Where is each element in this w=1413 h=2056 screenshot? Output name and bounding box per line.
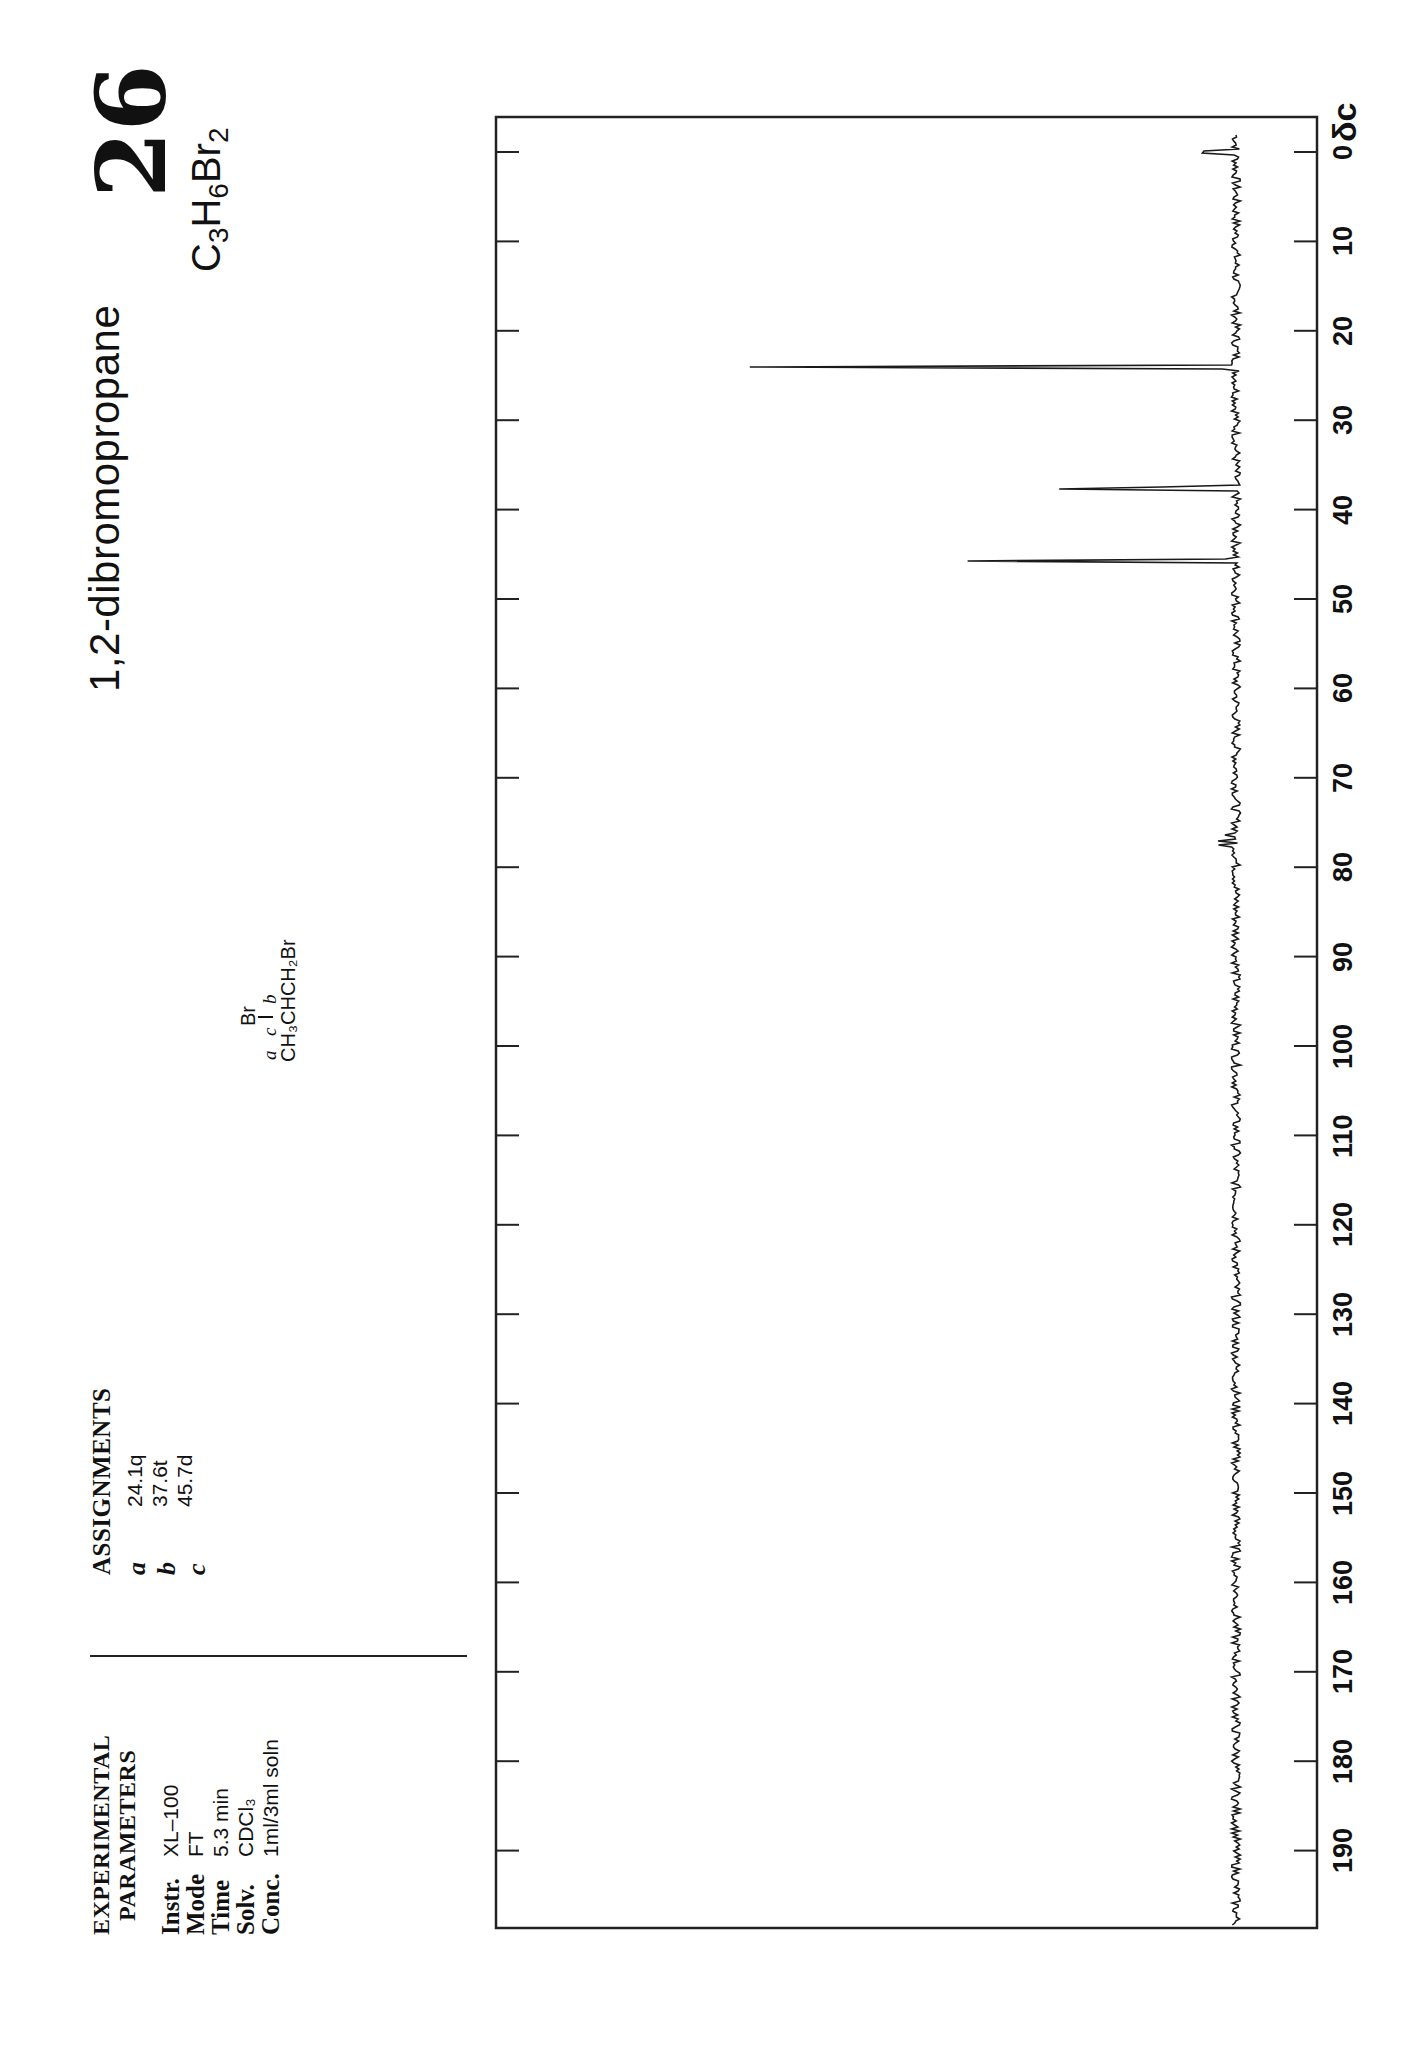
tick-label-120: 120 (1328, 1202, 1359, 1247)
tick-label-30: 30 (1328, 405, 1359, 435)
tick-label-70: 70 (1328, 763, 1359, 793)
tick-label-180: 180 (1328, 1739, 1359, 1784)
spectrum-plot (0, 0, 1413, 2056)
tick-label-110: 110 (1328, 1114, 1359, 1158)
tick-label-170: 170 (1328, 1649, 1359, 1694)
tick-label-190: 190 (1328, 1828, 1359, 1873)
tick-label-60: 60 (1328, 673, 1359, 703)
tick-label-100: 100 (1328, 1023, 1359, 1068)
tick-label-90: 90 (1328, 942, 1359, 972)
axis-ticks (496, 152, 1317, 1851)
tick-label-160: 160 (1328, 1560, 1359, 1605)
tick-label-140: 140 (1328, 1381, 1359, 1426)
tick-label-150: 150 (1328, 1470, 1359, 1515)
tick-label-20: 20 (1328, 316, 1359, 346)
tick-label-0: 0 (1328, 144, 1359, 159)
tick-label-50: 50 (1328, 584, 1359, 614)
plot-frame (496, 117, 1317, 1928)
tick-label-80: 80 (1328, 852, 1359, 882)
tick-label-10: 10 (1328, 226, 1359, 256)
spectrum-trace (750, 135, 1241, 1925)
tick-label-130: 130 (1328, 1292, 1359, 1337)
axis-unit-label: δc (1325, 102, 1364, 142)
tick-label-40: 40 (1328, 495, 1359, 525)
